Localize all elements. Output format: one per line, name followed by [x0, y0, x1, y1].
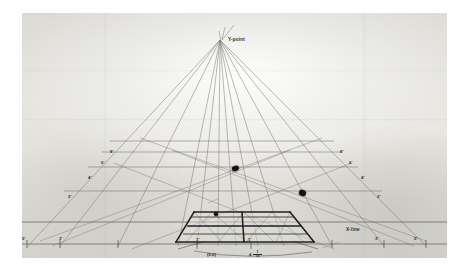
photograph: Y-point X-line (0,0) 4 1 16 5'3'1'1'3'5'…	[22, 13, 447, 258]
measure-denominator: 16	[253, 254, 262, 258]
right-diagonal-tick-label: 8'	[340, 150, 344, 154]
left-diagonal-tick-label: 2'	[68, 195, 72, 199]
left-diagonal-tick-label: 6'	[101, 161, 105, 165]
baseline-tick-label: 1'	[196, 238, 200, 242]
x-line-label: X-line	[346, 228, 360, 233]
origin-label: (0,0)	[207, 253, 216, 257]
left-diagonal-tick-label: 8'	[110, 150, 114, 154]
left-diagonal-tick-label: 4'	[88, 176, 92, 180]
baseline-tick-label: 3'	[59, 237, 63, 241]
baseline-tick-label: 1'	[248, 238, 252, 242]
photo-frame: Y-point X-line (0,0) 4 1 16 5'3'1'1'3'5'…	[0, 0, 469, 272]
ink-blob	[214, 212, 218, 216]
baseline-tick-label: 3'	[375, 237, 379, 241]
measure-whole: 4	[249, 253, 251, 257]
baseline-tick-label: 5'	[22, 237, 26, 241]
perspective-drawing	[22, 13, 447, 258]
measurement-label: 4 1 16	[253, 251, 262, 258]
baseline-tick-label: 5'	[414, 237, 418, 241]
right-diagonal-tick-label: 2'	[377, 195, 381, 199]
right-diagonal-tick-label: 4'	[361, 176, 365, 180]
vanishing-point-label: Y-point	[228, 38, 245, 43]
right-diagonal-tick-label: 6'	[349, 161, 353, 165]
